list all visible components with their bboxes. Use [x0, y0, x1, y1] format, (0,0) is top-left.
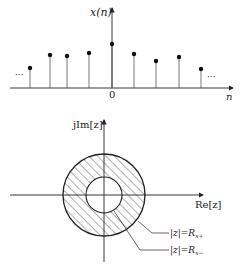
outer-radius-label: |z|=Rx+	[170, 228, 204, 239]
sample-dot	[65, 54, 69, 58]
outer-leader-line	[138, 221, 169, 233]
sample-dot	[154, 59, 158, 63]
ellipsis-left: ···	[15, 70, 24, 80]
real-axis-label: Re[z]	[195, 199, 222, 210]
sample-dot	[199, 67, 203, 71]
sample-dot	[48, 53, 52, 57]
sample-dot	[28, 66, 32, 70]
origin-label: 0	[109, 89, 115, 100]
sample-dot	[110, 42, 114, 46]
figure: x(n) 0 n ··· ··· jIm[z] Re[z] |z|=Rx+ |z…	[0, 0, 240, 264]
y-axis-label: x(n)	[90, 6, 112, 19]
z-plane-plot: jIm[z] Re[z] |z|=Rx+ |z|=Rx−	[10, 119, 222, 262]
ellipsis-right: ···	[207, 72, 216, 82]
imag-axis-label: jIm[z]	[72, 119, 103, 130]
inner-radius-label: |z|=Rx−	[170, 245, 204, 256]
x-axis-label: n	[226, 91, 232, 102]
sample-dot	[177, 55, 181, 59]
sample-dot	[132, 52, 136, 56]
sample-dot	[87, 51, 91, 55]
sequence-plot: x(n) 0 n ··· ···	[10, 6, 233, 102]
stems	[28, 42, 203, 88]
